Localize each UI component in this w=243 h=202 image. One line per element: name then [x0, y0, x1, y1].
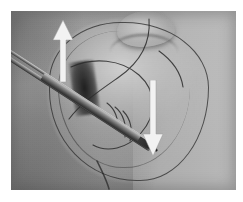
- film-grain-overlay: [11, 11, 236, 190]
- skin-marker-outline-inner: [58, 31, 190, 168]
- nipple-areola: [117, 11, 176, 47]
- photo-base-tone: [11, 11, 236, 190]
- traction-arrow-up-icon: [52, 20, 74, 82]
- plate-vignette: [11, 11, 236, 190]
- forceps-upper-limb: [11, 47, 154, 146]
- forceps-lower-limb: [11, 52, 151, 151]
- traction-arrow-down-icon: [142, 80, 164, 156]
- inframammary-crease: [110, 34, 178, 52]
- forceps-body: [40, 73, 153, 150]
- chest-wall-shadow: [11, 79, 128, 190]
- surgical-forceps: [11, 40, 159, 160]
- suture-threads: [11, 11, 236, 190]
- figure-root: [0, 0, 243, 202]
- clinical-photograph: [11, 11, 236, 190]
